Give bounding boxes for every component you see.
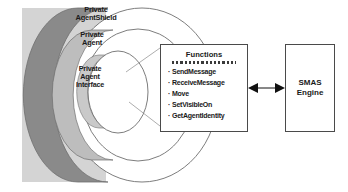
smas-engine-box: SMAS Engine — [285, 44, 335, 132]
functions-box-title: Functions — [161, 50, 247, 59]
function-item-set-visible-on: SetVisibleOn — [168, 99, 247, 110]
functions-list: SendMessage ReceiveMessage Move SetVisib… — [161, 66, 247, 121]
functions-box: Functions SendMessage ReceiveMessage Mov… — [160, 44, 248, 132]
function-item-get-agent-identity: GetAgentIdentity — [168, 110, 247, 121]
label-private-agent-interface: Private Agent Interface — [57, 65, 123, 89]
arrow-head-right — [275, 83, 285, 93]
arrow-head-left — [248, 83, 258, 93]
function-item-receive-message: ReceiveMessage — [168, 77, 247, 88]
function-item-move: Move — [168, 88, 247, 99]
smas-engine-label: SMAS Engine — [297, 78, 324, 98]
architecture-diagram: Private AgentShield Private Agent Privat… — [0, 0, 348, 192]
function-item-send-message: SendMessage — [168, 66, 247, 77]
label-private-agent-shield: Private AgentShield — [52, 6, 140, 23]
label-private-agent: Private Agent — [55, 31, 129, 48]
functions-box-separator — [172, 61, 236, 64]
